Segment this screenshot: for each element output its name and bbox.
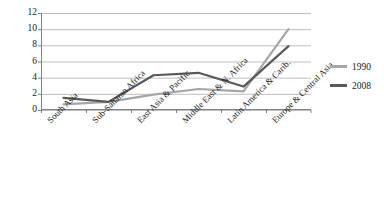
- legend-swatch-icon-1990: [330, 65, 347, 68]
- plot-area: [41, 13, 311, 110]
- legend-label-1990: 1990: [352, 62, 371, 72]
- y-axis-tick-8: 8: [15, 40, 37, 50]
- legend-item-2008[interactable]: 2008: [330, 76, 384, 95]
- data-series-lines: [41, 13, 311, 110]
- chart-container: 024681012 South AsiaSub-Saharan AfricaEa…: [0, 0, 384, 208]
- y-axis-tick-10: 10: [15, 24, 37, 34]
- chart-legend: 19902008: [330, 57, 384, 95]
- y-axis-tick-6: 6: [15, 57, 37, 67]
- legend-label-2008: 2008: [352, 81, 371, 91]
- legend-swatch-icon-2008: [330, 84, 347, 87]
- y-axis-tick-4: 4: [15, 73, 37, 83]
- y-axis-tick-2: 2: [15, 89, 37, 99]
- y-axis-tick-12: 12: [15, 8, 37, 18]
- x-axis-category-labels: South AsiaSub-Saharan AfricaEast Asia & …: [0, 112, 384, 208]
- y-axis-tick-labels: 024681012: [11, 13, 37, 110]
- legend-item-1990[interactable]: 1990: [330, 57, 384, 76]
